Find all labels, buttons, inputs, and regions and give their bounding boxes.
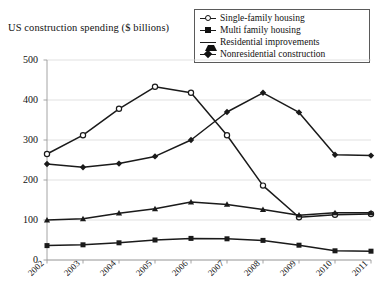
y-axis-tick-label: 500 [4,54,38,65]
data-point-marker [188,90,193,95]
series-line-1 [47,238,371,251]
y-axis-tick-label: 100 [4,214,38,225]
data-point-marker [368,152,374,158]
data-point-marker [44,161,50,167]
data-point-marker [44,151,49,156]
y-axis-tick-label: 400 [4,94,38,105]
series-line-0 [47,87,371,217]
data-point-marker [153,238,158,243]
data-point-marker [225,236,230,241]
data-point-marker [261,238,266,243]
data-point-marker [189,236,194,241]
data-point-marker [297,243,302,248]
y-axis-tick-label: 200 [4,174,38,185]
y-axis-tick-label: 300 [4,134,38,145]
data-point-marker [260,183,265,188]
plot-svg [0,0,376,302]
data-point-marker [224,133,229,138]
data-point-marker [45,243,50,248]
data-point-marker [116,160,122,166]
series-line-2 [47,202,371,220]
data-point-marker [116,106,121,111]
data-point-marker [369,249,374,254]
data-point-marker [260,90,266,96]
data-point-marker [117,240,122,245]
data-point-marker [80,164,86,170]
data-point-marker [152,84,157,89]
data-point-marker [152,153,158,159]
chart-root: US construction spending ($ billions) Si… [0,0,376,302]
data-point-marker [333,248,338,253]
data-point-marker [81,242,86,247]
series-line-3 [47,93,371,167]
data-point-marker [80,133,85,138]
plot-area: 0100200300400500 20022003200420052006200… [0,0,376,302]
